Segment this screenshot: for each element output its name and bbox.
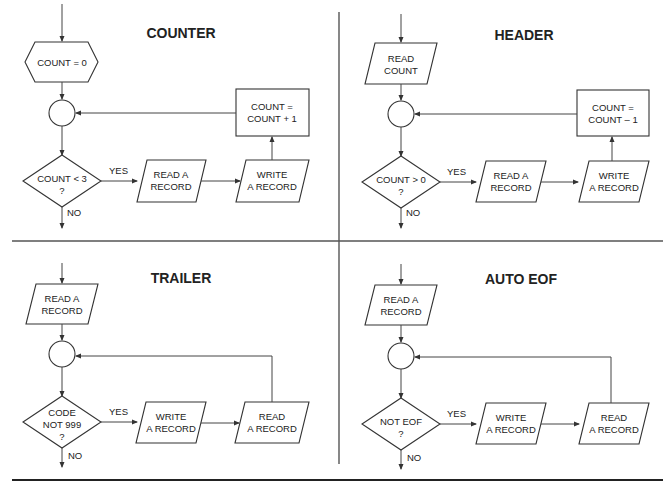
step1-label: READ A (494, 170, 530, 181)
no-label: NO (67, 207, 81, 218)
step2-label: READ (601, 412, 628, 423)
decision-label: COUNT < 3 (37, 173, 87, 184)
init-parallelogram (26, 284, 98, 324)
update-label: COUNT – 1 (588, 114, 637, 125)
step2-label: A RECORD (247, 423, 297, 434)
init-label: READ A (45, 293, 81, 304)
step1-label: RECORD (490, 182, 531, 193)
yes-label: YES (447, 408, 466, 419)
connector-circle (49, 341, 75, 367)
step2-label: WRITE (599, 170, 630, 181)
loop-arrow (415, 357, 611, 403)
init-label: READ (388, 53, 415, 64)
step1-label: WRITE (496, 412, 527, 423)
update-label: COUNT = (251, 101, 293, 112)
update-label: COUNT + 1 (247, 113, 297, 124)
flowchart-canvas: COUNTER COUNT = 0 COUNT < 3 ? NO YES REA… (0, 0, 672, 490)
no-label: NO (407, 452, 421, 463)
yes-label: YES (447, 166, 466, 177)
step1-label: A RECORD (146, 423, 196, 434)
decision-label: ? (398, 428, 403, 439)
init-label: COUNT (384, 65, 418, 76)
step1-label: A RECORD (486, 424, 536, 435)
step2-label: A RECORD (589, 424, 639, 435)
yes-label: YES (109, 406, 128, 417)
panel-title: AUTO EOF (485, 271, 558, 287)
init-label: RECORD (41, 305, 82, 316)
step1-label: WRITE (156, 411, 187, 422)
decision-label: NOT 999 (43, 419, 81, 430)
panel-header: HEADER READ COUNT COUNT > 0 ? NO YES REA… (362, 14, 649, 228)
connector-circle (388, 101, 414, 127)
step2-label: A RECORD (589, 182, 639, 193)
decision-label: ? (398, 186, 403, 197)
no-label: NO (406, 207, 420, 218)
step2-label: A RECORD (247, 181, 297, 192)
decision-label: ? (59, 185, 64, 196)
no-label: NO (68, 450, 82, 461)
yes-label: YES (109, 165, 128, 176)
step2-label: READ (259, 411, 286, 422)
step1-label: RECORD (150, 181, 191, 192)
panel-trailer: TRAILER READ A RECORD CODE NOT 999 ? NO … (23, 263, 309, 467)
step1-label: READ A (154, 169, 190, 180)
init-label: RECORD (380, 306, 421, 317)
decision-label: COUNT > 0 (376, 174, 426, 185)
panel-title: COUNTER (146, 25, 215, 41)
step2-label: WRITE (257, 169, 288, 180)
update-label: COUNT = (592, 102, 634, 113)
decision-label: ? (59, 431, 64, 442)
panel-counter: COUNTER COUNT = 0 COUNT < 3 ? NO YES REA… (23, 4, 309, 228)
init-parallelogram (365, 285, 437, 325)
update-box (577, 90, 649, 136)
connector-circle (49, 100, 75, 126)
panel-title: TRAILER (151, 270, 212, 286)
init-label: COUNT = 0 (37, 57, 87, 68)
panel-title: HEADER (494, 27, 553, 43)
connector-circle (388, 343, 414, 369)
decision-label: CODE (48, 407, 75, 418)
decision-label: NOT EOF (380, 416, 422, 427)
init-label: READ A (384, 294, 420, 305)
panel-auto-eof: AUTO EOF READ A RECORD NOT EOF ? NO YES … (362, 264, 649, 469)
loop-arrow (76, 356, 272, 402)
